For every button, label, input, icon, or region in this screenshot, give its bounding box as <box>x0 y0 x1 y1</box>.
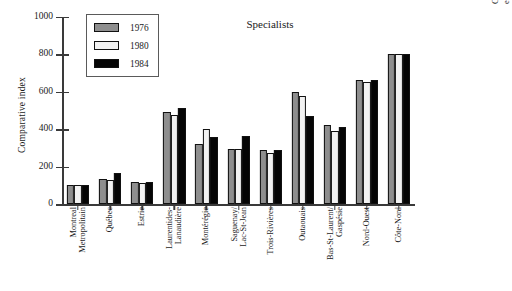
bar-cluster <box>292 17 314 204</box>
x-label-line: Nord-Ouest <box>362 207 371 246</box>
bar-1976 <box>99 179 106 204</box>
bar-1984 <box>371 80 378 204</box>
x-label-line: Montérégie <box>202 207 211 245</box>
bar-1984 <box>306 116 313 204</box>
bar-1980 <box>331 131 338 204</box>
x-label-cell: Laurentides-Lanaudière <box>158 205 190 289</box>
bar-1980 <box>139 183 146 205</box>
x-axis-label: Saguenay/Lac-St-Jean <box>229 207 248 247</box>
y-tick-label: 200 <box>39 162 53 172</box>
bar-1976 <box>388 54 395 204</box>
bar-1976 <box>163 112 170 204</box>
x-axis-label: Montérégie <box>202 207 211 245</box>
bar-cluster <box>99 17 121 204</box>
x-axis-label: Trois-Rivières <box>266 207 275 255</box>
x-label-cell: Bas-St-Laurent/Gaspésie <box>319 205 351 289</box>
x-label-line: Lac-St-Jean <box>239 207 248 247</box>
bar-group <box>222 17 254 204</box>
bar-1980 <box>235 149 242 204</box>
caption-line-2: each region by that of Metropolitan Mont… <box>501 0 512 4</box>
bar-1980 <box>203 129 210 204</box>
plot-area: 02004006008001000 <box>62 17 415 204</box>
x-label-cell: Outaouais <box>287 205 319 289</box>
bar-1984 <box>338 127 345 204</box>
bar-1976 <box>67 185 74 204</box>
bar-1976 <box>227 149 234 204</box>
bar-group <box>94 17 126 204</box>
bar-groups <box>62 17 415 204</box>
bar-1980 <box>363 82 370 204</box>
bar-cluster <box>163 17 185 204</box>
y-axis-title: Comparative index <box>17 45 27 185</box>
bar-group <box>190 17 222 204</box>
x-label-line: Québec <box>105 207 114 232</box>
x-axis-label: Outaouais <box>298 207 307 241</box>
x-axis-label: Estrie <box>138 207 147 226</box>
x-label-line: Saguenay/ <box>229 207 238 242</box>
x-label-cell: Montérégie <box>190 205 222 289</box>
x-label-line: Lanaudière <box>174 207 183 249</box>
y-tick-label: 0 <box>48 199 53 209</box>
bar-1976 <box>131 182 138 204</box>
x-axis-label: Nord-Ouest <box>362 207 371 246</box>
x-label-line: Laurentides- <box>165 207 174 249</box>
bar-1976 <box>260 150 267 204</box>
bar-1984 <box>274 150 281 204</box>
x-label-line: Montreal <box>69 207 78 237</box>
x-label-line: Bas-St-Laurent/ <box>325 207 334 260</box>
bar-1980 <box>106 180 113 204</box>
x-label-line: Metropolitain <box>78 207 87 253</box>
bar-cluster <box>356 17 378 204</box>
bar-1980 <box>267 153 274 204</box>
bar-1976 <box>195 144 202 204</box>
caption-line-1: Calculated by dividing the population/ph… <box>490 0 500 4</box>
bar-1984 <box>146 182 153 204</box>
bar-1984 <box>178 108 185 204</box>
x-label-line: Estrie <box>138 207 147 226</box>
x-axis-label: Bas-St-Laurent/Gaspésie <box>325 207 344 260</box>
bar-1980 <box>74 185 81 204</box>
bar-group <box>255 17 287 204</box>
bar-cluster <box>131 17 153 204</box>
bar-1984 <box>82 185 89 204</box>
x-label-cell: Trois-Rivières <box>255 205 287 289</box>
bar-group <box>62 17 94 204</box>
bar-group <box>383 17 415 204</box>
x-label-line: Gaspésie <box>335 207 344 260</box>
bar-1976 <box>356 80 363 204</box>
x-label-cell: MontrealMetropolitain <box>62 205 94 289</box>
bar-group <box>351 17 383 204</box>
x-label-line: Outaouais <box>298 207 307 241</box>
x-label-cell: Estrie <box>126 205 158 289</box>
bar-cluster <box>388 17 410 204</box>
x-label-cell: Côte-Nord <box>383 205 415 289</box>
bar-cluster <box>260 17 282 204</box>
bar-1984 <box>403 54 410 204</box>
bar-group <box>126 17 158 204</box>
bar-group <box>158 17 190 204</box>
bar-1980 <box>395 54 402 204</box>
bar-cluster <box>227 17 249 204</box>
bar-1976 <box>324 125 331 204</box>
x-label-line: Côte-Nord <box>394 207 403 243</box>
chart-caption: Calculated by dividing the population/ph… <box>490 0 512 4</box>
x-label-cell: Saguenay/Lac-St-Jean <box>222 205 254 289</box>
bar-1980 <box>299 96 306 204</box>
x-axis-label: Laurentides-Lanaudière <box>165 207 184 249</box>
x-axis-label: Côte-Nord <box>394 207 403 243</box>
bar-cluster <box>324 17 346 204</box>
bar-cluster <box>67 17 89 204</box>
bar-group <box>287 17 319 204</box>
x-axis-labels: MontrealMetropolitainQuébecEstrieLaurent… <box>62 205 415 289</box>
y-tick-label: 1000 <box>34 12 53 22</box>
bar-group <box>319 17 351 204</box>
x-axis-label: MontrealMetropolitain <box>69 207 88 253</box>
bar-cluster <box>195 17 217 204</box>
x-label-line: Trois-Rivières <box>266 207 275 255</box>
y-tick-label: 600 <box>39 87 53 97</box>
x-label-cell: Québec <box>94 205 126 289</box>
bar-1984 <box>242 136 249 204</box>
y-tick-label: 800 <box>39 50 53 60</box>
x-axis-label: Québec <box>105 207 114 232</box>
